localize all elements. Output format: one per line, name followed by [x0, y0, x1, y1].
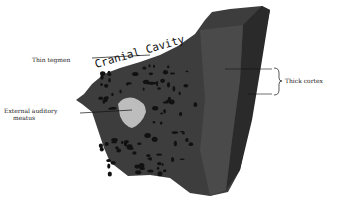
air-cell	[160, 113, 163, 115]
air-cell	[100, 74, 103, 80]
air-cell	[100, 83, 103, 86]
air-cell	[152, 137, 158, 142]
air-cell	[162, 163, 164, 166]
air-cell	[149, 157, 152, 161]
air-cell	[139, 163, 145, 168]
air-cell	[171, 157, 174, 162]
air-cell	[167, 82, 170, 87]
air-cell	[152, 106, 158, 110]
air-cell	[157, 162, 162, 165]
air-cell	[144, 133, 151, 138]
air-cell	[108, 71, 111, 74]
air-cell	[124, 140, 129, 143]
air-cell	[163, 70, 168, 74]
air-cell	[132, 151, 136, 155]
air-cell	[107, 164, 110, 169]
air-cell	[157, 167, 159, 170]
air-cell	[108, 108, 112, 110]
air-cell	[160, 79, 165, 83]
air-cell	[104, 84, 108, 88]
air-cell	[107, 160, 109, 162]
air-cell	[142, 67, 146, 70]
air-cell	[179, 92, 181, 96]
air-cell	[105, 142, 109, 146]
air-cell	[174, 141, 177, 146]
air-cell	[116, 149, 121, 153]
air-cell	[170, 72, 175, 74]
air-cell	[183, 84, 188, 87]
air-cell	[186, 71, 189, 73]
air-cell	[163, 109, 166, 114]
air-cell	[172, 131, 179, 134]
air-cell	[146, 154, 150, 157]
air-cell	[156, 81, 158, 87]
air-cell	[158, 171, 163, 176]
air-cell	[132, 72, 138, 76]
air-cell	[157, 87, 161, 90]
air-cell	[143, 80, 149, 84]
air-cell	[100, 147, 104, 151]
air-cell	[148, 64, 150, 67]
thick-cortex-label: Thick cortex	[285, 78, 323, 84]
air-cell	[163, 169, 166, 172]
air-cell	[111, 161, 116, 165]
air-cell	[185, 138, 188, 142]
thin-tegmen-label: Thin tegmen	[32, 57, 70, 63]
bone-illustration: Cranial Cavity	[0, 0, 337, 201]
air-cell	[108, 171, 112, 176]
air-cell	[173, 86, 176, 92]
air-cell	[189, 142, 194, 146]
air-cell	[180, 159, 185, 161]
air-cell	[179, 112, 182, 116]
air-cell	[127, 144, 133, 149]
external-auditory-meatus-label-line2: meatus	[13, 115, 35, 121]
air-cell	[168, 97, 171, 102]
air-cell	[126, 83, 128, 86]
air-cell	[143, 87, 145, 90]
air-cell	[135, 170, 141, 174]
air-cell	[167, 66, 169, 69]
thick-cortex-brace	[274, 68, 282, 95]
air-cell	[137, 143, 141, 146]
anatomy-figure: Cranial Cavity Thin tegmen External audi…	[0, 0, 337, 201]
air-cell	[153, 64, 155, 68]
air-cell	[156, 154, 162, 156]
air-cell	[149, 82, 154, 85]
air-cell	[194, 102, 198, 107]
air-cell	[111, 93, 113, 96]
air-cell	[119, 90, 121, 94]
air-cell	[180, 131, 185, 133]
air-cell	[98, 97, 103, 100]
air-cell	[103, 100, 106, 104]
air-cell	[147, 169, 153, 172]
air-cell	[111, 138, 118, 142]
air-cell	[160, 122, 163, 125]
air-cell	[153, 121, 156, 124]
air-cell	[108, 78, 111, 82]
air-cell	[121, 141, 123, 144]
air-cell	[149, 72, 153, 75]
